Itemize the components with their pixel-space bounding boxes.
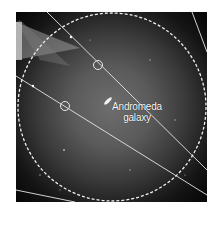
label-line-1: Andromeda [112,101,162,112]
label-line-2: galaxy [112,112,162,123]
andromeda-label: Andromeda galaxy [112,101,162,123]
